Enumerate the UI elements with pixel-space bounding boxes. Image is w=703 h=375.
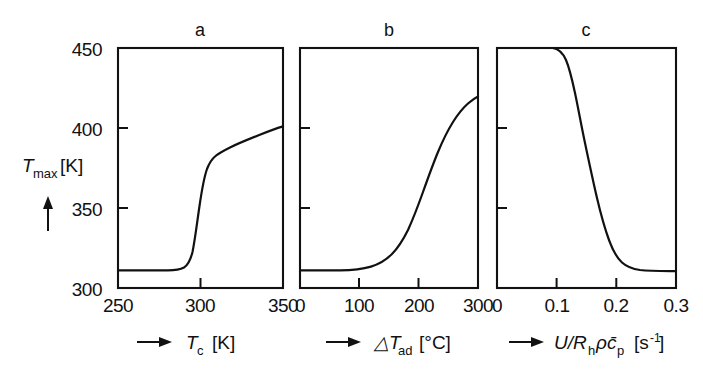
panel-b: b 0 100 200 300 △T ad [°C] [295, 20, 493, 358]
panel-b-xtick-label-300: 300 [463, 295, 493, 316]
panel-b-x-axis-title: △T ad [°C] [326, 332, 451, 358]
panel-c-xtick-label-0: 0 [492, 295, 502, 316]
panel-a-x-axis-title: T c [K] [137, 332, 235, 358]
panel-b-letter: b [384, 20, 394, 40]
panel-a-xtick-label-300: 300 [185, 295, 215, 316]
panel-a-xtick-label-250: 250 [103, 295, 133, 316]
panel-c-xtick-label-0.2: 0.2 [604, 295, 629, 316]
panel-b-frame [300, 48, 478, 288]
right-arrow-icon-b [326, 337, 361, 347]
figure-container: 450 400 350 300 T max [K] a [0, 0, 703, 375]
panel-a: a 250 300 350 T c [K] [103, 20, 298, 358]
panel-c-x-subscript: h [588, 343, 595, 358]
panel-b-xtick-label-100: 100 [344, 295, 374, 316]
panel-c-xtick-label-0.1: 0.1 [545, 295, 570, 316]
right-arrow-icon-a [137, 337, 172, 347]
y-tick-350: 350 [72, 199, 102, 220]
panel-c-x-cbar-subscript: p [617, 343, 624, 358]
y-tick-300: 300 [72, 279, 102, 300]
y-tick-400: 400 [72, 119, 102, 140]
panel-a-letter: a [195, 20, 206, 40]
panel-a-xtick-label-350: 350 [268, 295, 298, 316]
panel-a-x-subscript: c [197, 343, 204, 358]
panel-c-x-symbol: U/R [554, 332, 587, 353]
panel-c-curve [553, 48, 676, 271]
panel-a-frame [118, 48, 283, 288]
y-axis-unit: [K] [60, 155, 83, 176]
right-arrow-icon-c [509, 337, 544, 347]
y-tick-450: 450 [72, 39, 102, 60]
panel-b-x-unit: [°C] [419, 332, 451, 353]
y-axis-title-subscript: max [33, 166, 58, 181]
y-axis-group: 450 400 350 300 T max [K] [22, 39, 102, 300]
panel-a-curve [118, 126, 283, 270]
panel-b-xtick-label-0: 0 [295, 295, 305, 316]
up-arrow-icon [43, 196, 53, 231]
y-axis-title: T max [K] [22, 155, 83, 181]
panel-c-x-unit-close: ] [659, 332, 664, 353]
panel-c-letter: c [582, 20, 591, 40]
panel-c: c 0 0.1 0.2 0.3 U/R h ρ c̄ p [492, 20, 689, 358]
panel-a-x-unit: [K] [212, 332, 235, 353]
panel-c-x-axis-title: U/R h ρ c̄ p [s -1 ] [509, 331, 664, 358]
panel-c-x-rho: ρ [595, 332, 607, 353]
panel-c-frame [497, 48, 676, 288]
panel-c-x-cbar: c̄ [607, 332, 617, 353]
panel-b-curve [300, 97, 478, 271]
panel-c-xtick-label-0.3: 0.3 [664, 295, 689, 316]
panel-b-xtick-label-200: 200 [404, 295, 434, 316]
panel-b-x-subscript: ad [398, 343, 412, 358]
three-panel-plot: 450 400 350 300 T max [K] a [0, 0, 703, 375]
panel-c-x-unit-open: [s [634, 332, 649, 353]
